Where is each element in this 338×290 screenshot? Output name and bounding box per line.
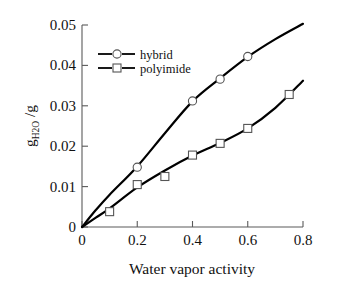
- legend-label-polyimide: polyimide: [140, 62, 191, 76]
- y-axis-tick-labels: 00.010.020.030.040.05: [50, 17, 77, 235]
- x-tick-label-2: 0.4: [183, 232, 202, 248]
- x-axis-tick-labels: 00.20.40.60.8: [78, 232, 312, 248]
- data-point-polyimide-3: [161, 173, 169, 181]
- chart-legend: hybrid polyimide: [98, 48, 191, 76]
- legend-marker-square-icon: [113, 64, 121, 72]
- svg-text:gH2O /g: gH2O /g: [21, 105, 41, 147]
- y-tick-label-1: 0.01: [50, 179, 76, 195]
- legend-marker-circle-icon: [113, 50, 121, 58]
- data-point-polyimide-1: [106, 208, 114, 216]
- x-tick-label-4: 0.8: [294, 232, 313, 248]
- x-axis-title: Water vapor activity: [129, 260, 255, 277]
- data-point-polyimide-4: [189, 151, 197, 159]
- data-point-hybrid-1: [133, 163, 141, 171]
- y-tick-label-3: 0.03: [50, 98, 76, 114]
- y-tick-label-0: 0: [69, 219, 77, 235]
- data-point-hybrid-2: [188, 97, 196, 105]
- x-axis-ticks: [82, 221, 303, 227]
- data-point-hybrid-4: [244, 52, 252, 60]
- y-tick-label-4: 0.04: [50, 57, 77, 73]
- y-tick-label-2: 0.02: [50, 138, 76, 154]
- chart-canvas: 00.010.020.030.040.05 00.20.40.60.8 hybr…: [0, 0, 338, 290]
- y-axis-title-tail: /g: [21, 105, 38, 121]
- data-point-polyimide-2: [133, 181, 141, 189]
- y-tick-label-5: 0.05: [50, 17, 76, 33]
- legend-label-hybrid: hybrid: [140, 48, 173, 62]
- x-tick-label-0: 0: [78, 232, 86, 248]
- y-axis-title: gH2O /g: [21, 105, 41, 147]
- axes-group: 00.010.020.030.040.05 00.20.40.60.8: [50, 17, 313, 248]
- legend-entry-hybrid: hybrid: [98, 48, 173, 62]
- x-tick-label-3: 0.6: [238, 232, 257, 248]
- scatter-line-chart-figure: 00.010.020.030.040.05 00.20.40.60.8 hybr…: [0, 0, 338, 290]
- data-point-hybrid-3: [216, 75, 224, 83]
- y-axis-ticks: [82, 25, 88, 227]
- data-point-polyimide-5: [216, 139, 224, 147]
- legend-entry-polyimide: polyimide: [98, 62, 191, 76]
- x-tick-label-1: 0.2: [128, 232, 147, 248]
- data-point-polyimide-6: [244, 124, 252, 132]
- data-point-polyimide-7: [285, 90, 293, 98]
